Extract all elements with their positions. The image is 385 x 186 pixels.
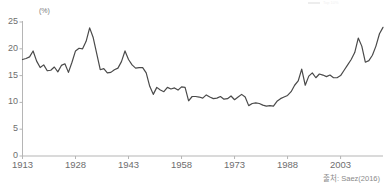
x-tick-label: 1913: [6, 160, 40, 170]
data-line-top-10-percent: [23, 27, 384, 106]
x-tick-label: 1973: [218, 160, 252, 170]
x-tick-label: 1988: [271, 160, 305, 170]
x-tick-label: 1943: [112, 160, 146, 170]
source-note: 출처: Saez(2016): [323, 172, 380, 183]
line-chart-plot: [0, 0, 385, 186]
axes-group: [23, 21, 384, 156]
chart-figure: Top 10% (%) 0510152025 19131928194319581…: [0, 0, 385, 186]
x-tick-label: 2003: [324, 160, 358, 170]
y-tick-label: 15: [2, 71, 18, 80]
y-tick-label: 10: [2, 97, 18, 106]
y-tick-label: 25: [2, 17, 18, 26]
y-tick-label: 5: [2, 124, 18, 133]
y-tick-label: 20: [2, 44, 18, 53]
x-tick-label: 1958: [165, 160, 199, 170]
x-tick-label: 1928: [59, 160, 93, 170]
